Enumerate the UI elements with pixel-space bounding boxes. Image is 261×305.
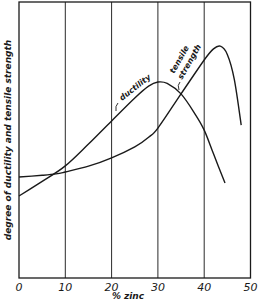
x-tick-30: 30 <box>151 281 165 294</box>
chart: 01020304050 % zinc degree of ductility a… <box>0 0 261 305</box>
x-tick-0: 0 <box>16 281 23 294</box>
tensile-leader <box>178 82 180 90</box>
tensile-strength-curve <box>19 46 241 177</box>
plot-frame <box>19 2 251 278</box>
curves <box>19 46 241 196</box>
y-axis-label: degree of ductility and tensile strength <box>3 40 13 240</box>
x-axis-label: % zinc <box>112 291 145 301</box>
ductility-leader <box>116 103 118 111</box>
x-tick-10: 10 <box>58 281 72 294</box>
grid-lines <box>65 2 204 278</box>
x-tick-40: 40 <box>197 281 211 294</box>
x-tick-50: 50 <box>244 281 258 294</box>
